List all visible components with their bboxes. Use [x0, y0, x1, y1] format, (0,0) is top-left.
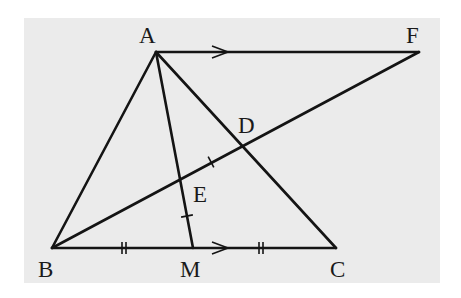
label-c: C — [330, 257, 345, 282]
label-b: B — [38, 257, 53, 282]
label-f: F — [406, 23, 419, 48]
label-e: E — [193, 182, 207, 207]
label-m: M — [180, 257, 200, 282]
geometry-diagram: A F B M C D E — [0, 0, 461, 298]
label-a: A — [139, 23, 156, 48]
label-d: D — [238, 113, 255, 138]
